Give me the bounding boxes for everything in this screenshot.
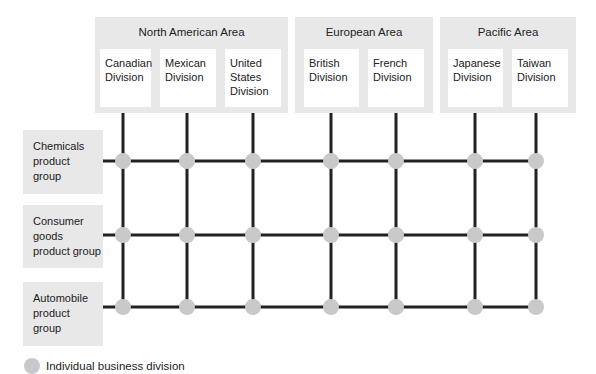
legend: Individual business division	[24, 358, 185, 374]
grid-lines	[103, 113, 536, 307]
legend-label: Individual business division	[46, 360, 185, 372]
business-division-node-icon	[24, 358, 40, 374]
